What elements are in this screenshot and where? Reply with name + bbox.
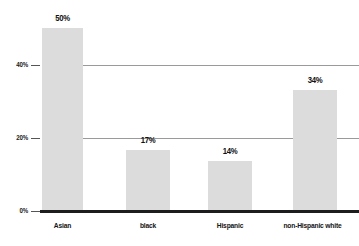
bar-value-asian: 50%	[45, 13, 80, 23]
bar-value-non-hispanic-white: 34%	[296, 75, 334, 85]
bar-hispanic[interactable]	[208, 161, 252, 212]
x-axis-baseline	[40, 210, 359, 213]
y-tick-label-40-wrap: 40%	[0, 61, 28, 69]
bar-value-hispanic: 14%	[211, 146, 249, 156]
x-label-black: black	[122, 221, 175, 230]
y-tick-label-40: 40%	[5, 61, 28, 69]
bar-asian[interactable]	[42, 28, 83, 212]
x-label-asian: Asian	[36, 221, 90, 230]
bar-non-hispanic-white[interactable]	[293, 90, 337, 212]
y-tick-40	[31, 65, 40, 66]
gridline-40	[42, 65, 359, 66]
y-tick-label-0-wrap: 0%	[0, 207, 28, 215]
y-tick-label-20: 20%	[5, 134, 28, 142]
x-label-hispanic: Hispanic	[204, 221, 257, 230]
y-tick-label-20-wrap: 20%	[0, 134, 28, 142]
bar-black[interactable]	[126, 150, 170, 212]
x-label-non-hispanic-white: non-Hispanic white	[272, 221, 354, 230]
y-tick-label-0: 0%	[5, 207, 28, 215]
plot-area: 40% 20% 0% 50% 17% 14% 34% Asian black H…	[0, 0, 359, 246]
bar-value-black: 17%	[129, 135, 167, 145]
y-tick-20	[31, 138, 40, 139]
bar-chart: 40% 20% 0% 50% 17% 14% 34% Asian black H…	[0, 0, 359, 246]
y-tick-0	[31, 211, 40, 212]
